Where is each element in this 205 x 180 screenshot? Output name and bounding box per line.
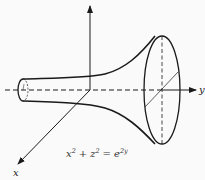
x-axis-label: x bbox=[13, 167, 19, 178]
surface-diagram: y x x2+z2=e2y bbox=[0, 0, 205, 180]
small-end-ellipse bbox=[18, 79, 28, 101]
upper-profile-curve bbox=[23, 36, 155, 79]
y-axis-label: y bbox=[198, 84, 205, 95]
surface-equation: x2+z2=e2y bbox=[66, 147, 128, 159]
lower-profile-curve bbox=[23, 101, 155, 144]
